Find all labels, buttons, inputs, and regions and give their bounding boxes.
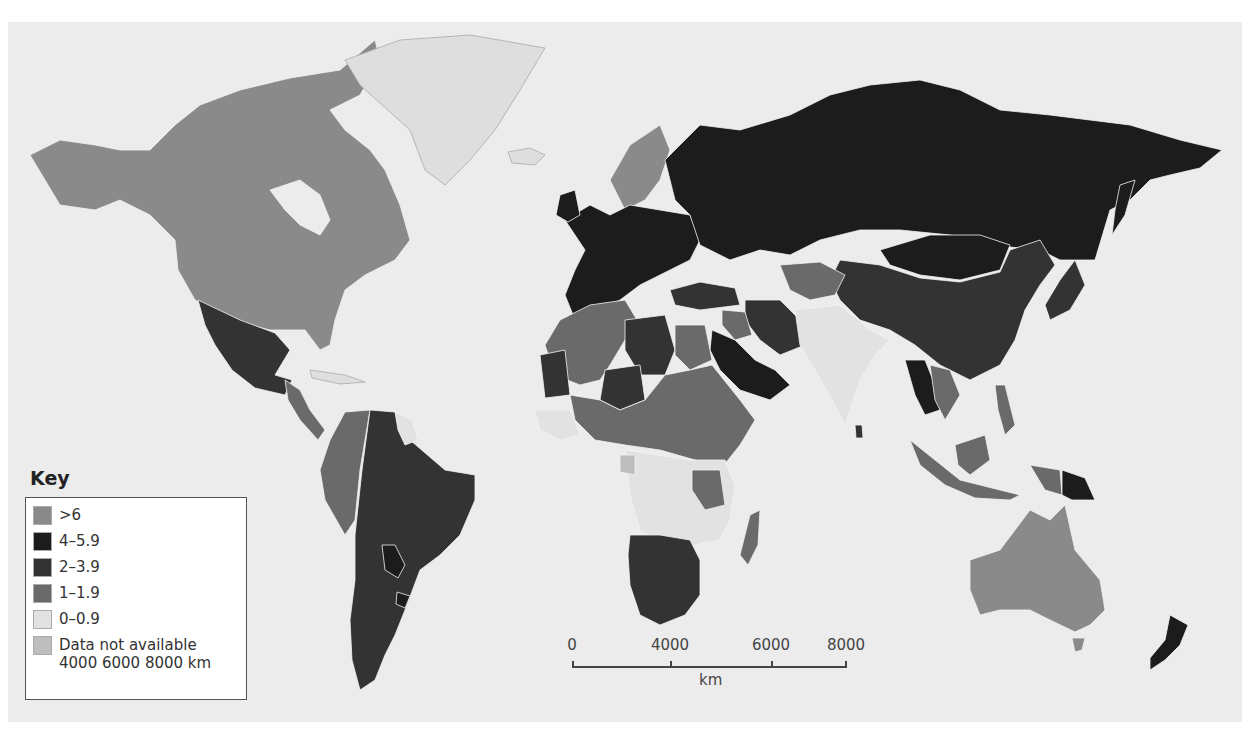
- region-scandinavia: [610, 125, 670, 210]
- legend-label: 0–0.9: [59, 610, 100, 628]
- legend-label: 1–1.9: [59, 584, 100, 602]
- scale-bar: 0 4000 6000 8000 km: [566, 636, 866, 696]
- region-central-america: [285, 380, 325, 440]
- region-north-america: [30, 40, 410, 350]
- region-sri-lanka: [855, 425, 863, 438]
- legend-swatch-0-0.9: [33, 610, 52, 629]
- region-central-asia: [780, 262, 845, 300]
- region-uk: [556, 190, 580, 222]
- scale-tick-label: 6000: [752, 636, 790, 654]
- legend-swatch-na: [33, 636, 52, 655]
- scale-tick: [771, 661, 773, 668]
- region-southern-africa: [628, 535, 700, 625]
- legend-swatch-1-1.9: [33, 584, 52, 603]
- region-iceland: [508, 148, 545, 165]
- legend-swatch-4-5.9: [33, 532, 52, 551]
- legend-extra-text: 4000 6000 8000 km: [59, 654, 246, 672]
- scale-tick-label: 4000: [651, 636, 689, 654]
- legend-swatch-2-3.9: [33, 558, 52, 577]
- region-caribbean: [310, 370, 365, 384]
- legend-label: Data not available: [59, 636, 197, 654]
- legend-item-1-1.9: 1–1.9: [33, 580, 246, 606]
- legend: >6 4–5.9 2–3.9 1–1.9 0–0.9 Data not avai…: [25, 497, 247, 700]
- region-tasmania: [1072, 638, 1085, 652]
- region-south-america: [350, 410, 475, 690]
- scale-tick-label: 8000: [827, 636, 865, 654]
- legend-item-gt6: >6: [33, 502, 246, 528]
- region-mauritania: [540, 350, 570, 398]
- region-australia: [970, 505, 1105, 632]
- legend-item-0-0.9: 0–0.9: [33, 606, 246, 632]
- legend-label: 4–5.9: [59, 532, 100, 550]
- region-west-africa-coast: [535, 410, 580, 440]
- region-philippines: [995, 385, 1015, 435]
- scale-tick: [845, 661, 847, 668]
- region-new-zealand: [1150, 615, 1188, 670]
- scale-tick-label: 0: [567, 636, 577, 654]
- legend-item-4-5.9: 4–5.9: [33, 528, 246, 554]
- region-turkey: [670, 282, 740, 310]
- scale-tick: [572, 661, 574, 668]
- legend-swatch-gt6: [33, 506, 52, 525]
- scale-line: [572, 666, 847, 668]
- region-russia: [665, 80, 1222, 260]
- region-new-guinea-west: [1030, 465, 1062, 495]
- region-gabon: [620, 455, 635, 475]
- legend-label: >6: [59, 506, 81, 524]
- region-iran: [745, 300, 805, 355]
- legend-label: 2–3.9: [59, 558, 100, 576]
- legend-item-2-3.9: 2–3.9: [33, 554, 246, 580]
- scale-unit: km: [699, 671, 722, 689]
- region-borneo: [955, 435, 990, 475]
- region-papua-new-guinea: [1062, 470, 1095, 500]
- key-title: Key: [30, 467, 70, 489]
- region-egypt: [675, 325, 712, 370]
- region-madagascar: [740, 510, 760, 565]
- scale-tick: [670, 661, 672, 668]
